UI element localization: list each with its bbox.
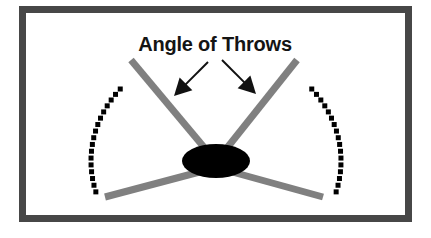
arc-dot: [101, 109, 106, 114]
arc-dot: [98, 116, 103, 121]
arc-dot: [309, 87, 314, 92]
arc-dot: [334, 129, 339, 134]
arc-dot: [89, 149, 94, 154]
arc-dot: [91, 135, 96, 140]
arc-dot: [90, 142, 95, 147]
arc-dot: [332, 122, 337, 127]
arc-dot: [89, 162, 94, 167]
figure-root: Angle of Throws: [0, 0, 431, 238]
arc-dot: [326, 109, 331, 114]
page-title: Angle of Throws: [138, 33, 292, 55]
angle-of-throws-diagram: Angle of Throws: [0, 0, 431, 238]
arc-dot: [329, 116, 334, 121]
arc-dot: [105, 103, 110, 108]
arc-dot: [337, 176, 342, 181]
arc-dot: [109, 98, 114, 103]
arc-dot: [338, 169, 343, 174]
arc-dot: [338, 149, 343, 154]
arc-dot: [336, 135, 341, 140]
arc-dot: [91, 183, 96, 188]
arc-dot: [89, 169, 94, 174]
arc-dot: [93, 189, 98, 194]
arc-dot: [338, 162, 343, 167]
arc-dot: [334, 189, 339, 194]
arc-dot: [113, 92, 118, 97]
arc-dot: [95, 122, 100, 127]
arc-dot: [118, 87, 123, 92]
arc-dot: [93, 129, 98, 134]
arc-dot: [322, 103, 327, 108]
arc-dot: [89, 156, 94, 161]
arc-dot: [318, 98, 323, 103]
arc-dot: [90, 176, 95, 181]
arc-dot: [336, 183, 341, 188]
central-ellipse: [182, 144, 250, 178]
arc-dot: [337, 142, 342, 147]
arc-dot: [314, 92, 319, 97]
arc-dot: [338, 156, 343, 161]
